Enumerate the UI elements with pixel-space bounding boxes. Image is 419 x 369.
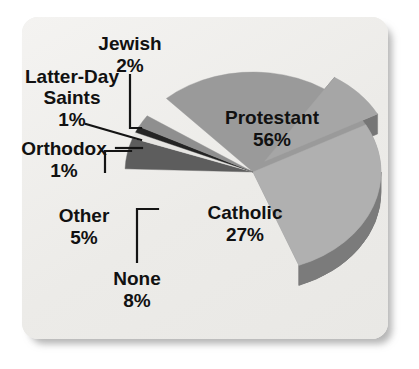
label-catholic-name: Catholic	[208, 202, 283, 223]
label-jewish-name: Jewish	[98, 33, 161, 54]
label-none-percent: 8%	[123, 290, 151, 311]
leader-line-none	[137, 209, 158, 262]
label-orthodox-name: Orthodox	[21, 138, 107, 159]
label-orthodox-percent: 1%	[50, 160, 78, 181]
pie-slices-group	[125, 72, 381, 285]
label-jewish-percent: 2%	[116, 55, 144, 76]
label-protestant-percent: 56%	[253, 129, 291, 150]
pie-chart-svg: Jewish 2% Latter-Day Saints 1% Orthodox …	[0, 0, 419, 369]
label-none-name: None	[113, 268, 161, 289]
label-latter-day-saints-line1: Latter-Day	[25, 66, 119, 87]
label-latter-day-saints-line2: Saints	[43, 87, 100, 108]
label-catholic-percent: 27%	[226, 224, 264, 245]
leader-line-jewish	[130, 75, 141, 128]
label-other-percent: 5%	[70, 227, 98, 248]
label-protestant-name: Protestant	[225, 107, 320, 128]
pie-chart-figure: Jewish 2% Latter-Day Saints 1% Orthodox …	[0, 0, 419, 369]
label-other-name: Other	[59, 205, 110, 226]
label-latter-day-saints-percent: 1%	[58, 109, 86, 130]
